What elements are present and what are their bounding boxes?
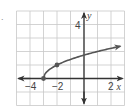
x-axis-label: x <box>116 81 122 92</box>
y-tick-label: 4 <box>75 20 81 31</box>
curve-point <box>41 76 46 81</box>
x-tick-label: −4 <box>25 81 37 92</box>
y-axis-label: y <box>86 10 92 21</box>
x-tick-label: 2 <box>108 81 114 92</box>
function-graph: −4−224xy <box>0 0 134 108</box>
x-tick-label: −2 <box>52 81 64 92</box>
tick-labels: −4−224xy <box>25 10 122 92</box>
curve-point <box>55 63 60 68</box>
